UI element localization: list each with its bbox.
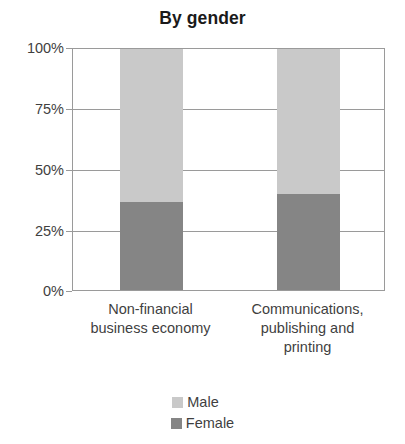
x-axis-label-line: printing bbox=[229, 338, 386, 357]
legend: Male Female bbox=[0, 392, 405, 434]
legend-swatch-male-icon bbox=[172, 397, 183, 408]
x-axis-label-line: publishing and bbox=[229, 319, 386, 338]
chart-container: By gender 100% 75% 50% 25% 0% Non-financ… bbox=[0, 0, 405, 444]
bar-non-financial-business-economy[interactable] bbox=[120, 49, 183, 290]
y-axis-tick-0 bbox=[66, 291, 72, 292]
legend-label-female: Female bbox=[186, 416, 234, 431]
bar-segment-female[interactable] bbox=[277, 194, 340, 290]
x-axis-label-line: Non-financial bbox=[72, 300, 229, 319]
bar-segment-male[interactable] bbox=[277, 49, 340, 194]
y-axis-label-25: 25% bbox=[2, 224, 64, 238]
bar-segment-female[interactable] bbox=[120, 202, 183, 290]
x-axis-label-line: business economy bbox=[72, 319, 229, 338]
legend-item-male[interactable]: Male bbox=[0, 392, 405, 413]
plot-area bbox=[72, 48, 385, 291]
legend-item-female[interactable]: Female bbox=[0, 413, 405, 434]
y-axis-label-50: 50% bbox=[2, 163, 64, 177]
y-axis-label-100: 100% bbox=[2, 41, 64, 55]
legend-label-male: Male bbox=[187, 395, 218, 410]
y-axis-label-75: 75% bbox=[2, 102, 64, 116]
x-axis-label-line: Communications, bbox=[229, 300, 386, 319]
bar-segment-male[interactable] bbox=[120, 49, 183, 202]
legend-swatch-female-icon bbox=[171, 418, 182, 429]
x-axis-label-non-financial-business-economy: Non-financial business economy bbox=[72, 300, 229, 338]
x-axis-label-communications-publishing-printing: Communications, publishing and printing bbox=[229, 300, 386, 357]
bar-communications-publishing-printing[interactable] bbox=[277, 49, 340, 290]
y-axis: 100% 75% 50% 25% 0% bbox=[0, 0, 64, 444]
y-axis-label-0: 0% bbox=[2, 284, 64, 298]
